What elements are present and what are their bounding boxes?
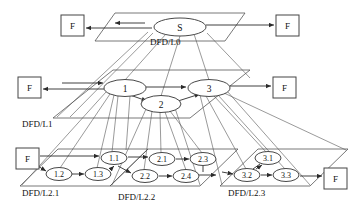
external-entity[interactable]: F (16, 148, 39, 169)
process-node-2-1[interactable]: 2.1 (149, 153, 175, 166)
external-entity-label: F (25, 154, 30, 164)
external-entity-label: F (333, 174, 338, 184)
external-entity[interactable]: F (61, 15, 84, 36)
process-node-1-3[interactable]: 1.3 (85, 168, 111, 181)
external-entity[interactable]: F (18, 77, 41, 98)
external-entity-label: F (27, 83, 32, 93)
process-label: 1.1 (109, 154, 119, 163)
process-label: 1.2 (54, 170, 64, 179)
external-entity[interactable]: F (276, 15, 299, 36)
process-label: 2.4 (181, 172, 191, 181)
process-node-2-4[interactable]: 2.4 (173, 170, 199, 183)
process-node-3-3[interactable]: 3.3 (273, 169, 299, 182)
process-label: 2 (159, 100, 164, 110)
process-node-1-2[interactable]: 1.2 (46, 168, 72, 181)
process-node-1[interactable]: 1 (104, 80, 146, 97)
process-label: 3.2 (242, 171, 252, 180)
external-entity[interactable]: F (324, 168, 347, 189)
level-label-L0: DFD/L0 (150, 37, 181, 47)
level-label-L2-2: DFD/L2.2 (118, 192, 155, 202)
process-label: 3.3 (281, 171, 291, 180)
level-label-L1: DFD/L1 (22, 119, 53, 129)
process-node-3-1[interactable]: 3.1 (255, 152, 281, 165)
level-label-L2-3: DFD/L2.3 (228, 188, 266, 198)
process-label: 1.3 (93, 170, 103, 179)
process-label: 3.1 (263, 154, 273, 163)
external-entity-label: F (282, 83, 287, 93)
process-label: 2.3 (198, 155, 208, 164)
process-node-2-3[interactable]: 2.3 (190, 153, 216, 166)
process-node-3-2[interactable]: 3.2 (234, 169, 260, 182)
process-node-1-1[interactable]: 1.1 (101, 152, 127, 165)
process-node-2-2[interactable]: 2.2 (132, 170, 158, 183)
external-entity-label: F (70, 21, 75, 31)
process-node-3[interactable]: 3 (188, 80, 230, 97)
external-entity-label: F (285, 21, 290, 31)
process-label: 2.2 (140, 172, 150, 181)
process-label: 3 (207, 84, 212, 94)
process-node-S[interactable]: S (154, 18, 206, 36)
diagram-canvas: F F F F F F S 1 (0, 0, 360, 214)
process-node-2[interactable]: 2 (141, 96, 181, 113)
level-label-L2-1: DFD/L2.1 (22, 188, 59, 198)
process-label: S (177, 23, 182, 33)
process-label: 2.1 (157, 155, 167, 164)
process-label: 1 (123, 84, 128, 94)
external-entity[interactable]: F (273, 77, 296, 98)
dfd-hierarchy-diagram: F F F F F F S 1 (0, 0, 360, 214)
